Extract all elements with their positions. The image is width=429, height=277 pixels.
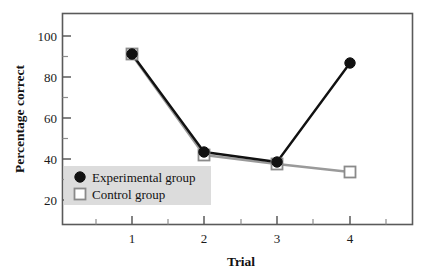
markers-experimental-group: [127, 49, 355, 167]
x-tick-label-1: 1: [129, 231, 136, 246]
y-tick-label-40: 40: [44, 152, 57, 167]
y-axis-title: Percentage correct: [12, 65, 27, 173]
x-tick-label-4: 4: [347, 231, 354, 246]
line-chart: 100 80 60 40 20 Percentage correct 1 2 3…: [0, 0, 429, 277]
chart-container: 100 80 60 40 20 Percentage correct 1 2 3…: [0, 0, 429, 277]
filled-circle-icon: [272, 157, 282, 167]
open-square-icon: [345, 167, 356, 178]
legend-label-experimental-group: Experimental group: [92, 170, 196, 185]
legend: Experimental group Control group: [64, 166, 211, 205]
x-axis-ticks: [96, 216, 386, 225]
y-tick-label-80: 80: [44, 70, 57, 85]
x-axis-tick-labels: 1 2 3 4: [129, 231, 354, 246]
filled-circle-icon: [127, 49, 137, 59]
x-axis-title: Trial: [227, 254, 255, 269]
y-tick-label-60: 60: [44, 111, 57, 126]
x-tick-label-2: 2: [201, 231, 208, 246]
filled-circle-icon: [345, 58, 355, 68]
y-tick-label-100: 100: [38, 29, 58, 44]
filled-circle-icon: [75, 172, 85, 182]
filled-circle-icon: [199, 147, 209, 157]
open-square-icon: [75, 189, 86, 200]
legend-label-control-group: Control group: [92, 187, 165, 202]
y-axis-tick-labels: 100 80 60 40 20: [38, 29, 58, 208]
legend-item-experimental-group: Experimental group: [75, 170, 196, 185]
series-line-experimental-group: [132, 54, 350, 162]
x-tick-label-3: 3: [274, 231, 281, 246]
series-line-control-group: [132, 55, 350, 172]
y-tick-label-20: 20: [44, 193, 57, 208]
